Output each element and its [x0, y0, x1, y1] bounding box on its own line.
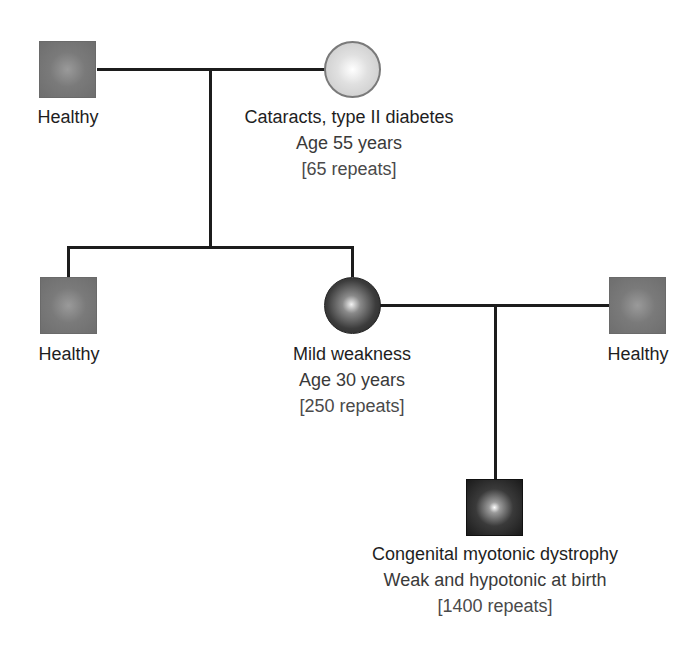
son-status-text: Healthy — [38, 341, 99, 367]
proband-label: Congenital myotonic dystrophy Weak and h… — [372, 541, 618, 619]
grandmother-circle-symbol — [324, 41, 381, 98]
father-label: Healthy — [607, 341, 668, 367]
mother-age-text: Age 30 years — [293, 367, 411, 393]
grandmother-phenotype-text: Cataracts, type II diabetes — [244, 104, 453, 130]
mother-circle-symbol — [324, 277, 381, 334]
father-square-symbol — [609, 277, 666, 334]
proband-repeats-text: [1400 repeats] — [372, 593, 618, 619]
grandfather-square-symbol — [39, 41, 96, 98]
grandmother-age-text: Age 55 years — [244, 130, 453, 156]
grandmother-label: Cataracts, type II diabetes Age 55 years… — [244, 104, 453, 182]
descent-line-generation2 — [494, 304, 497, 480]
drop-line-mother — [351, 246, 354, 277]
descent-line-generation1 — [209, 68, 212, 249]
grandfather-label: Healthy — [37, 104, 98, 130]
father-status-text: Healthy — [607, 341, 668, 367]
grandfather-status-text: Healthy — [37, 104, 98, 130]
proband-detail-text: Weak and hypotonic at birth — [372, 567, 618, 593]
mother-phenotype-text: Mild weakness — [293, 341, 411, 367]
son-label: Healthy — [38, 341, 99, 367]
grandmother-repeats-text: [65 repeats] — [244, 156, 453, 182]
drop-line-son — [67, 246, 70, 277]
proband-square-symbol — [466, 479, 523, 536]
sibship-line-generation2 — [67, 246, 354, 249]
pedigree-diagram: Healthy Cataracts, type II diabetes Age … — [0, 0, 696, 646]
mother-repeats-text: [250 repeats] — [293, 393, 411, 419]
mother-label: Mild weakness Age 30 years [250 repeats] — [293, 341, 411, 419]
proband-diagnosis-text: Congenital myotonic dystrophy — [372, 541, 618, 567]
son-square-symbol — [40, 277, 97, 334]
